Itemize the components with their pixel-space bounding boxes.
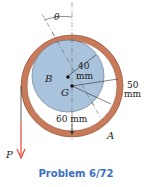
dim-40-value: 40: [78, 61, 90, 71]
disk-center-point: [66, 75, 70, 79]
dim-40-unit: mm: [76, 71, 94, 81]
label-b: B: [44, 73, 52, 84]
figure-caption: Problem 6/72: [0, 168, 152, 179]
problem-diagram: θ 40 mm B G 50 mm 60 mm A P: [0, 0, 152, 187]
g-point: [70, 84, 74, 88]
dim-60-label: 60 mm: [56, 114, 88, 124]
theta-label: θ: [54, 12, 60, 22]
label-g: G: [61, 87, 69, 98]
label-p: P: [5, 149, 13, 160]
dim-50-unit: mm: [124, 89, 142, 99]
label-a: A: [106, 130, 114, 141]
